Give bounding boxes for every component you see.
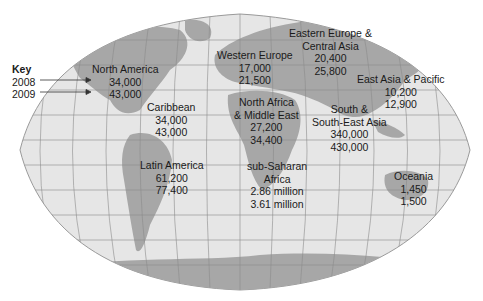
region-latin-america: Latin America 61,200 77,400 <box>140 159 204 197</box>
value-2008: 20,400 <box>289 52 372 65</box>
region-north-africa-middle-east: North Africa & Middle East 27,200 34,400 <box>234 96 299 146</box>
world-map <box>0 0 483 301</box>
value-2008: 34,000 <box>147 114 195 127</box>
region-north-america: North America 34,000 43,000 <box>92 63 159 101</box>
value-2009: 43,000 <box>147 126 195 139</box>
region-south-southeast-asia: South & South-East Asia 340,000 430,000 <box>312 103 387 153</box>
value-2008: 10,200 <box>357 86 445 99</box>
value-2008: 17,000 <box>217 62 293 75</box>
key-title: Key <box>12 63 35 76</box>
legend-key: Key 2008 2009 <box>12 63 35 101</box>
value-2008: 27,200 <box>234 121 299 134</box>
value-2009: 1,500 <box>394 195 433 208</box>
region-caribbean: Caribbean 34,000 43,000 <box>147 101 195 139</box>
value-2008: 34,000 <box>92 76 159 89</box>
value-2009: 77,400 <box>140 184 204 197</box>
value-2008: 2.86 million <box>247 185 307 198</box>
key-year-2009: 2009 <box>12 88 35 101</box>
value-2009: 21,500 <box>217 74 293 87</box>
value-2008: 1,450 <box>394 183 433 196</box>
value-2008: 61,200 <box>140 172 204 185</box>
region-sub-saharan-africa: sub-Saharan Africa 2.86 million 3.61 mil… <box>247 160 307 210</box>
key-year-2008: 2008 <box>12 76 35 89</box>
value-2009: 43,000 <box>92 88 159 101</box>
value-2009: 430,000 <box>312 141 387 154</box>
region-eastern-europe-central-asia: Eastern Europe & Central Asia 20,400 25,… <box>289 27 372 77</box>
value-2008: 340,000 <box>312 128 387 141</box>
region-western-europe: Western Europe 17,000 21,500 <box>217 49 293 87</box>
value-2009: 34,400 <box>234 134 299 147</box>
region-oceania: Oceania 1,450 1,500 <box>394 170 433 208</box>
value-2009: 3.61 million <box>247 198 307 211</box>
